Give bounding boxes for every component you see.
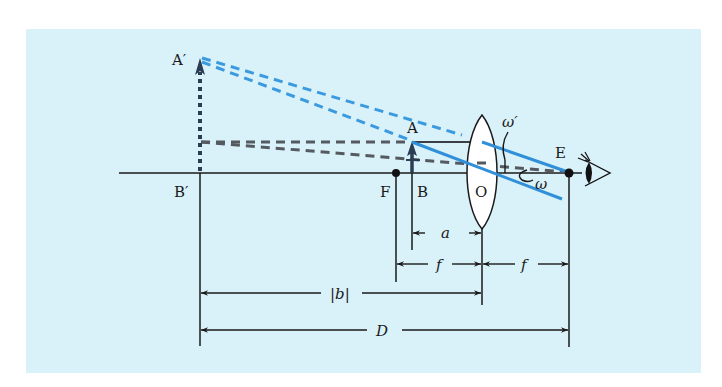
label-eye-point: E xyxy=(555,144,566,162)
focal-point-dot xyxy=(392,169,400,177)
label-dim-a: a xyxy=(441,224,450,242)
label-angle-omega-prime: ω′ xyxy=(502,113,518,131)
label-image-top: A′ xyxy=(171,51,187,69)
diagram-panel xyxy=(26,29,701,373)
label-image-base: B′ xyxy=(174,183,189,201)
label-dim-D: D xyxy=(375,322,388,340)
label-dim-b: |b| xyxy=(330,285,350,303)
label-object-base: B xyxy=(417,183,428,201)
label-object-top: A xyxy=(406,119,418,137)
label-focal-point: F xyxy=(380,183,390,201)
label-lens-center: O xyxy=(475,183,487,201)
label-angle-omega: ω xyxy=(535,175,547,193)
eye-point-dot xyxy=(565,169,574,178)
magnifier-ray-diagram: A′ B′ A B F O E ω′ ω a f f |b| D xyxy=(0,0,722,387)
